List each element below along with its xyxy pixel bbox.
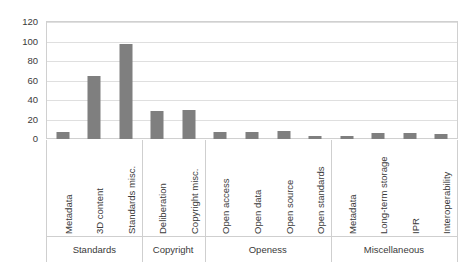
group-label: Copyright: [153, 244, 194, 255]
bar[interactable]: [403, 133, 416, 139]
bar-slot: [362, 22, 394, 139]
category-label: Long-term storage: [378, 144, 389, 234]
group-separator: [331, 140, 332, 236]
bar-slot: [425, 22, 457, 139]
category-label-cell: Open source: [268, 140, 300, 236]
category-label: Metadata: [347, 144, 358, 234]
category-label: 3D content: [94, 144, 105, 234]
group-label: Standards: [73, 244, 116, 255]
bar[interactable]: [372, 133, 385, 139]
group-label-band: StandardsCopyrightOpenessMiscellaneous: [46, 236, 458, 262]
y-tick-label: 40: [27, 95, 38, 105]
bar-slot: [47, 22, 79, 139]
category-label: Open access: [220, 144, 231, 234]
group-divider: [205, 237, 206, 262]
y-tick-label: 60: [27, 76, 38, 86]
bar[interactable]: [214, 132, 227, 139]
category-label: Interoperability: [441, 144, 452, 234]
y-axis: 020406080100120: [0, 21, 44, 141]
y-tick-label: 80: [27, 56, 38, 66]
bars-layer: [47, 22, 457, 139]
bar[interactable]: [277, 131, 290, 139]
category-label-band: Metadata3D contentStandards misc.Deliber…: [46, 140, 458, 236]
group-divider: [331, 237, 332, 262]
bar-slot: [110, 22, 142, 139]
category-label-cell: Copyright misc.: [173, 140, 205, 236]
category-label-cell: 3D content: [79, 140, 111, 236]
category-label-cell: Open data: [236, 140, 268, 236]
category-label: Copyright misc.: [189, 144, 200, 234]
bar[interactable]: [88, 76, 101, 139]
bar-slot: [142, 22, 174, 139]
bar-slot: [299, 22, 331, 139]
category-label-cell: Standards misc.: [110, 140, 142, 236]
bar[interactable]: [309, 136, 322, 139]
bar-slot: [173, 22, 205, 139]
y-tick-label: 0: [33, 134, 38, 144]
category-label: Standards misc.: [126, 144, 137, 234]
category-label-cell: Open standards: [299, 140, 331, 236]
y-tick-label: 20: [27, 115, 38, 125]
category-label: Deliberation: [157, 144, 168, 234]
category-label-cell: Metadata: [47, 140, 79, 236]
category-label-cell: Interoperability: [425, 140, 457, 236]
category-label-cell: Open access: [205, 140, 237, 236]
bar-slot: [268, 22, 300, 139]
bar[interactable]: [340, 136, 353, 139]
group-label-cell: Miscellaneous: [331, 237, 457, 262]
bar-chart: 020406080100120 Metadata3D contentStanda…: [0, 0, 475, 279]
category-label-cell: Deliberation: [142, 140, 174, 236]
group-label-cell: Copyright: [142, 237, 205, 262]
category-label: Open standards: [315, 144, 326, 234]
category-label: Open source: [284, 144, 295, 234]
y-tick-label: 120: [22, 17, 38, 27]
group-label-cell: Openess: [205, 237, 331, 262]
category-label: Metadata: [63, 144, 74, 234]
bar[interactable]: [245, 132, 258, 139]
category-label-cell: IPR: [394, 140, 426, 236]
bar[interactable]: [182, 110, 195, 139]
bar[interactable]: [435, 134, 448, 139]
bar-slot: [236, 22, 268, 139]
group-divider: [142, 237, 143, 262]
group-label: Miscellaneous: [364, 244, 424, 255]
y-tick-label: 100: [22, 37, 38, 47]
bar[interactable]: [151, 111, 164, 139]
group-separator: [142, 140, 143, 236]
bar[interactable]: [119, 44, 132, 139]
category-label: Open data: [252, 144, 263, 234]
bar-slot: [394, 22, 426, 139]
bar-slot: [79, 22, 111, 139]
category-label-cell: Long-term storage: [362, 140, 394, 236]
group-label: Openess: [249, 244, 287, 255]
category-label-cell: Metadata: [331, 140, 363, 236]
group-separator: [205, 140, 206, 236]
bar-slot: [331, 22, 363, 139]
bar[interactable]: [56, 132, 69, 139]
category-label: IPR: [410, 144, 421, 234]
group-label-cell: Standards: [47, 237, 142, 262]
bar-slot: [205, 22, 237, 139]
